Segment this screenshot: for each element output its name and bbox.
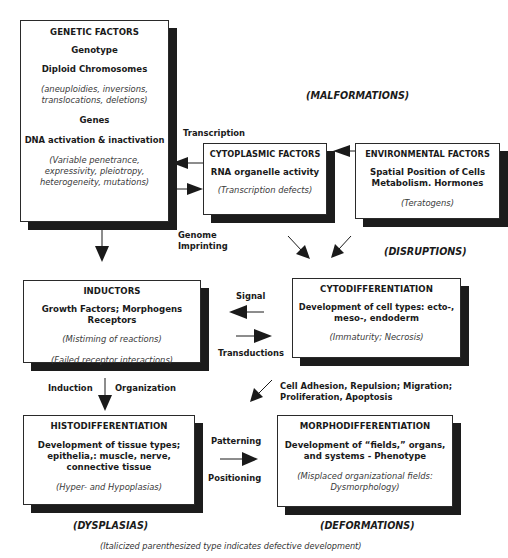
- histodifferentiation-box: HISTODIFFERENTIATION Development of tiss…: [23, 415, 195, 505]
- growth-factors-text: Growth Factors; Morphogens: [24, 304, 200, 315]
- dysplasias-label: (DYSPLASIAS): [73, 520, 148, 531]
- arrow-genetic-to-inductors: [95, 230, 109, 262]
- gene-defects-line2: expressivity, pleiotropy,: [21, 166, 168, 177]
- environmental-factors-title: ENVIRONMENTAL FACTORS: [356, 149, 499, 159]
- arrow-patterning-positioning: [220, 452, 258, 466]
- histodifferentiation-title: HISTODIFFERENTIATION: [24, 421, 194, 431]
- arrow-genetic-to-cytoplasmic: [176, 183, 203, 195]
- arrow-cytoplasmic-to-genetic: [172, 157, 203, 169]
- cytoplasmic-factors-box: CYTOPLASMIC FACTORS RNA organelle activi…: [203, 143, 327, 215]
- morphodifferentiation-title: MORPHODIFFERENTIATION: [278, 421, 452, 431]
- genome-label: Genome: [178, 230, 217, 241]
- gene-defects-line1: (Variable penetrance,: [21, 155, 168, 166]
- spatial-position-text: Spatial Position of Cells: [356, 167, 499, 178]
- dna-activation-text: DNA activation & inactivation: [21, 135, 168, 146]
- arrow-environmental-to-cytoplasmic: [333, 145, 355, 157]
- teratogens-text: (Teratogens): [356, 198, 499, 209]
- systems-phenotype-text: and systems - Phenotype: [278, 451, 452, 462]
- imprinting-label: Imprinting: [178, 241, 228, 252]
- arrow-transductions: [236, 329, 272, 343]
- chromosome-defects-line2: translocations, deletions): [21, 95, 168, 106]
- genes-text: Genes: [21, 115, 168, 126]
- gene-defects-line3: heterogeneity, mutations): [21, 177, 168, 188]
- proliferation-label: Proliferation, Apoptosis: [280, 392, 392, 403]
- misplaced-fields-text: (Misplaced organizational fields:: [278, 471, 452, 482]
- inductors-box: INDUCTORS Growth Factors; Morphogens Rec…: [23, 280, 201, 363]
- morphodifferentiation-box: MORPHODIFFERENTIATION Development of “fi…: [277, 415, 453, 507]
- arrow-cytoplasmic-to-cytodifferentiation: [288, 236, 310, 259]
- cytodifferentiation-title: CYTODIFFERENTIATION: [293, 284, 460, 294]
- cytodifferentiation-box: CYTODIFFERENTIATION Development of cell …: [292, 278, 461, 358]
- fields-organs-text: Development of “fields,” organs,: [278, 440, 452, 451]
- genetic-factors-box: GENETIC FACTORS Genotype Diploid Chromos…: [20, 20, 169, 222]
- hyper-hypoplasias-text: (Hyper- and Hypoplasias): [24, 482, 194, 493]
- induction-label: Induction: [48, 383, 93, 394]
- patterning-label: Patterning: [211, 436, 261, 447]
- signal-label: Signal: [236, 291, 265, 302]
- arrow-inductors-to-histodifferentiation: [98, 378, 112, 411]
- arrow-cytodifferentiation-to-morphodifferentiation: [250, 380, 272, 402]
- genetic-factors-title: GENETIC FACTORS: [21, 27, 168, 37]
- transcription-defects-text: (Transcription defects): [204, 185, 326, 196]
- deformations-label: (DEFORMATIONS): [320, 520, 415, 531]
- transductions-label: Transductions: [218, 348, 284, 359]
- dysmorphology-text: Dysmorphology): [278, 482, 452, 493]
- footnote: (Italicized parenthesized type indicates…: [100, 541, 362, 551]
- positioning-label: Positioning: [208, 473, 261, 484]
- disruptions-label: (DISRUPTIONS): [384, 246, 467, 257]
- arrow-environmental-to-cytodifferentiation: [331, 236, 351, 258]
- cell-adhesion-label: Cell Adhesion, Repulsion; Migration;: [280, 381, 452, 392]
- connective-tissue-text: connective tissue: [24, 462, 194, 473]
- malformations-label: (MALFORMATIONS): [306, 90, 409, 101]
- rna-organelle-text: RNA organelle activity: [204, 167, 326, 178]
- transcription-label: Transcription: [183, 128, 245, 139]
- receptors-text: Receptors: [24, 315, 200, 326]
- organization-label: Organization: [115, 383, 176, 394]
- genotype-text: Genotype: [21, 45, 168, 56]
- mistiming-text: (Mistiming of reactions): [24, 334, 200, 345]
- inductors-title: INDUCTORS: [24, 286, 200, 296]
- cell-types-text: Development of cell types: ecto-,: [293, 302, 460, 313]
- failed-receptor-text: (Failed receptor interactions): [24, 355, 200, 366]
- immaturity-necrosis-text: (Immaturity; Necrosis): [293, 332, 460, 343]
- metabolism-hormones-text: Metabolism. Hormones: [356, 178, 499, 189]
- environmental-factors-box: ENVIRONMENTAL FACTORS Spatial Position o…: [355, 143, 500, 219]
- cytoplasmic-factors-title: CYTOPLASMIC FACTORS: [204, 149, 326, 159]
- arrow-signal: [229, 305, 264, 319]
- chromosome-defects-line1: (aneuploidies, inversions,: [21, 84, 168, 95]
- epithelia-text: epithelia,: muscle, nerve,: [24, 451, 194, 462]
- diploid-chromosomes-text: Diploid Chromosomes: [21, 64, 168, 75]
- tissue-types-text: Development of tissue types;: [24, 440, 194, 451]
- germ-layers-text: meso-, endoderm: [293, 313, 460, 324]
